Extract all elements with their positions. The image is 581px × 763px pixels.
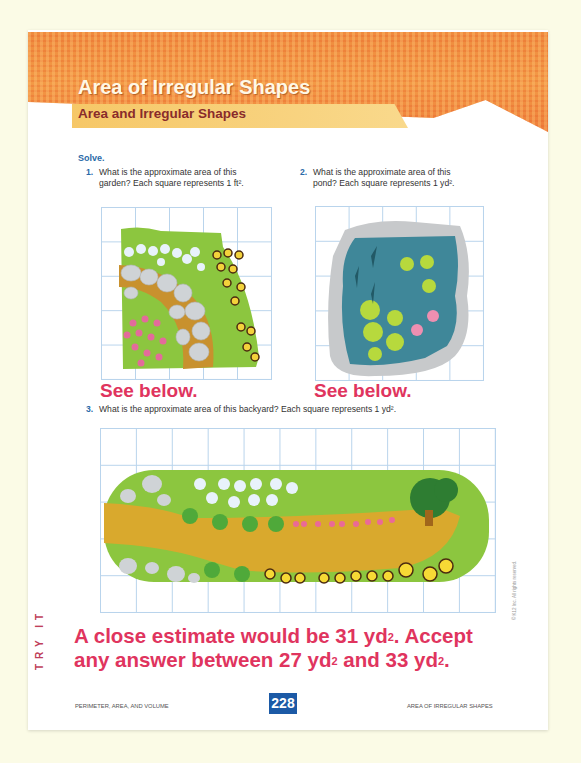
answer-text: any answer between 27 yd <box>74 648 332 671</box>
superscript: 2 <box>388 631 394 643</box>
footer-unit: PERIMETER, AREA, AND VOLUME <box>75 703 169 709</box>
problem-3-number: 3. <box>86 404 93 415</box>
answer-text: A close estimate would be 31 yd <box>74 624 388 647</box>
problem-3-line1: What is the approximate area of this bac… <box>86 404 396 415</box>
problem-1-answer: See below. <box>100 380 198 402</box>
garden-illustration <box>101 207 271 379</box>
answer-text: and 33 yd <box>338 648 438 671</box>
problem-2-line2: pond? Each square represents 1 yd². <box>313 178 454 189</box>
side-tab-label: TRY IT <box>34 609 45 670</box>
page-number: 228 <box>269 693 297 714</box>
pond-illustration <box>315 206 483 380</box>
problem-1-text: 1. What is the approximate area of this … <box>86 167 244 189</box>
problem-3-answer: A close estimate would be 31 yd2. Accept… <box>74 624 473 672</box>
page-subtitle: Area and Irregular Shapes <box>78 106 246 121</box>
page-title: Area of Irregular Shapes <box>78 76 310 99</box>
problem-1-line2: garden? Each square represents 1 ft². <box>99 178 244 189</box>
backyard-illustration <box>100 428 495 612</box>
problem-3-text: 3. What is the approximate area of this … <box>86 404 396 415</box>
problem-1-number: 1. <box>86 167 93 178</box>
copyright: © K12 Inc. All rights reserved. <box>512 561 517 620</box>
problem-1-line1: What is the approximate area of this <box>99 167 244 178</box>
instructions: Solve. <box>78 153 105 163</box>
problem-2-line1: What is the approximate area of this <box>313 167 454 178</box>
problem-2-answer: See below. <box>314 380 412 402</box>
superscript: 2 <box>332 655 338 667</box>
footer-lesson: AREA OF IRREGULAR SHAPES <box>407 703 493 709</box>
problem-2-number: 2. <box>300 167 307 178</box>
answer-text: . <box>444 648 450 671</box>
answer-text: . Accept <box>394 624 473 647</box>
problem-2-text: 2. What is the approximate area of this … <box>300 167 454 189</box>
superscript: 2 <box>438 655 444 667</box>
